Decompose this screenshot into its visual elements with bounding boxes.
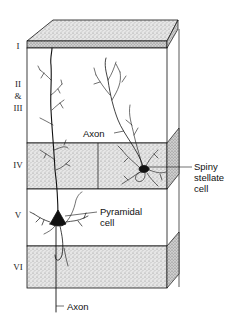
layer-label-ii: II (11, 79, 25, 89)
layer-label-vi: VI (11, 262, 25, 272)
stellate-cell-label-1: Spiny (194, 161, 218, 172)
layer-label-i: I (11, 41, 25, 51)
stellate-axon-label: Axon (83, 128, 105, 139)
stellate-cell-label-2: stellate (194, 172, 224, 183)
layer-label-iii: III (11, 103, 25, 113)
pyramidal-axon-label: Axon (67, 301, 89, 312)
layer-label-iv: IV (11, 160, 25, 170)
pyramidal-cell-label-1: Pyramidal (100, 206, 142, 217)
pyramidal-cell-label-2: cell (100, 217, 114, 228)
layer-label-v: V (11, 210, 25, 220)
stellate-cell-label-3: cell (194, 183, 208, 194)
layer-v-block (27, 189, 167, 246)
layer-i-block (27, 20, 178, 48)
layer-label-amp: & (11, 91, 25, 101)
